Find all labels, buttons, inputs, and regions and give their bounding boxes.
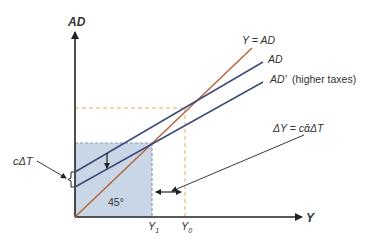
ad-prime-line <box>75 82 263 187</box>
c-delta-t-brace <box>68 172 74 187</box>
y-axis-label: AD <box>67 15 86 29</box>
shift-label: cΔT <box>13 155 34 167</box>
ad-prime-note: (higher taxes) <box>292 73 356 85</box>
diagram-canvas: AD Y Y = AD AD AD' (higher taxes) 45° cΔ… <box>0 0 368 241</box>
multiplier-pointer <box>172 135 304 191</box>
angle-label: 45° <box>108 196 124 208</box>
ad-prime-line-label: AD' <box>269 73 288 85</box>
x-axis-label: Y <box>306 211 315 225</box>
y1-tick-label: Y1 <box>148 220 159 234</box>
y0-tick-label: Y0 <box>181 220 192 234</box>
c-delta-t-pointer <box>37 161 66 178</box>
ad-line-label: AD <box>267 53 283 65</box>
ad-line <box>75 62 263 172</box>
forty-five-line-label: Y = AD <box>242 34 275 46</box>
multiplier-label: ΔY = cᾱΔT <box>272 122 325 134</box>
